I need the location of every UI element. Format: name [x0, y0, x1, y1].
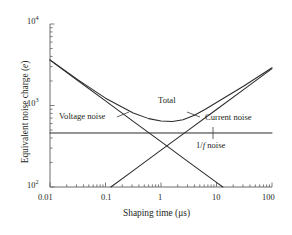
- series-current-noise: [111, 69, 272, 187]
- annotation-one-over-f-noise: 1/f noise: [196, 141, 225, 150]
- y-axis-title: Equivalent noise charge (e): [20, 61, 30, 164]
- annotation-leader-lines: [117, 112, 213, 139]
- x-tick-label-0.1: 0.1: [101, 194, 111, 202]
- data-series-layer: [50, 60, 272, 187]
- figure-container: 104 103 102 0.01 0.1 1 10 100 Shaping ti…: [0, 0, 292, 235]
- annotation-total: Total: [158, 96, 176, 105]
- axis-lines: [50, 24, 272, 187]
- x-tick-label-1: 1: [158, 194, 162, 202]
- x-tick-label-0.01: 0.01: [38, 194, 53, 202]
- y-axis-title-wrapper: Equivalent noise charge (e): [14, 32, 32, 192]
- annotation-current-noise: Current noise: [205, 113, 252, 122]
- x-tick-label-10: 10: [212, 194, 220, 202]
- annotation-voltage-noise: Voltage noise: [59, 112, 105, 121]
- y-axis-ticks: [50, 24, 55, 187]
- x-axis-ticks: [50, 183, 272, 188]
- y-tick-label-10000: 104: [27, 18, 38, 26]
- x-axis-title: Shaping time (μs): [123, 209, 190, 218]
- x-tick-label-100: 100: [262, 194, 275, 202]
